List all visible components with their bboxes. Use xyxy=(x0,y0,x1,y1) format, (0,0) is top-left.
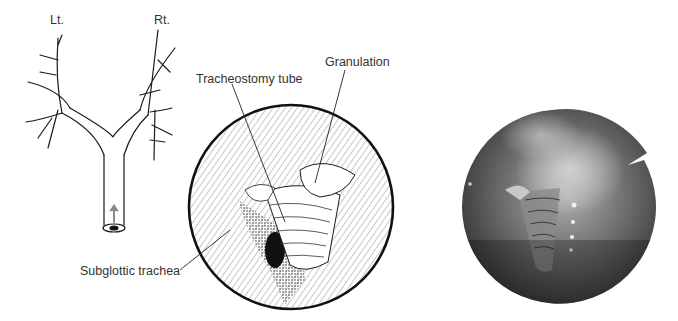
label-tracheostomy-tube: Tracheostomy tube xyxy=(196,72,303,86)
bronchial-tree xyxy=(26,30,175,232)
label-granulation: Granulation xyxy=(325,55,390,69)
endoscopic-photo xyxy=(450,100,660,310)
label-right-bronchus: Rt. xyxy=(154,13,170,27)
label-subglottic-trachea: Subglottic trachea xyxy=(80,264,180,278)
label-left-bronchus: Lt. xyxy=(50,13,64,27)
